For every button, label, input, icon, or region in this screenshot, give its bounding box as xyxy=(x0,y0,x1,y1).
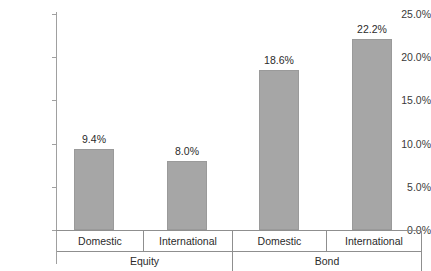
category-label-bond-domestic: Domestic xyxy=(233,231,326,251)
bar-bond-domestic[interactable] xyxy=(259,70,299,230)
bar-value-label: 8.0% xyxy=(147,146,227,157)
y-axis-tick-mark xyxy=(52,100,56,101)
y-axis-tick-mark xyxy=(52,187,56,188)
bar-chart: 25.0% 20.0% 15.0% 10.0% 5.0% 0.0% 9.4% 8… xyxy=(0,0,431,271)
y-axis-tick-mark xyxy=(52,14,56,15)
category-label-equity-domestic: Domestic xyxy=(57,231,143,251)
bar-value-label: 18.6% xyxy=(239,55,319,66)
category-separator xyxy=(421,231,422,251)
bar-value-label: 22.2% xyxy=(332,24,412,35)
category-label-equity-international: International xyxy=(144,231,232,251)
group-separator xyxy=(421,251,422,271)
category-label-bond-international: International xyxy=(327,231,421,251)
bar-bond-international[interactable] xyxy=(352,39,392,230)
group-label-bond: Bond xyxy=(233,251,421,271)
y-axis-tick-label: 25.0% xyxy=(383,9,431,19)
bar-equity-domestic[interactable] xyxy=(74,149,114,230)
bar-value-label: 9.4% xyxy=(54,134,134,145)
bar-equity-international[interactable] xyxy=(167,161,207,230)
group-label-equity: Equity xyxy=(57,251,232,271)
y-axis-tick-mark xyxy=(52,57,56,58)
